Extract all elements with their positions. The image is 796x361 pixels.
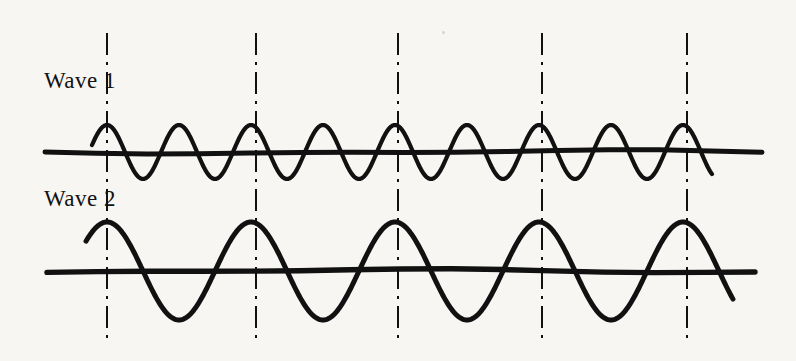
wave-1-baseline <box>45 150 762 154</box>
reference-lines-group <box>107 33 687 345</box>
wave-2-label: Wave 2 <box>44 186 116 212</box>
scan-speck <box>442 31 445 34</box>
wave-diagram-canvas <box>0 0 796 361</box>
wave-1-label: Wave 1 <box>44 68 116 94</box>
wave-comparison-figure: Wave 1 Wave 2 <box>0 0 796 361</box>
